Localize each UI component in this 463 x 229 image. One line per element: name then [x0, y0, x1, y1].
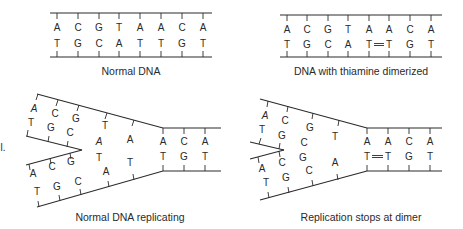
- upper-inner-backbone: [26, 136, 82, 150]
- base: C: [281, 115, 288, 126]
- base: T: [200, 38, 206, 49]
- dna-dimer-diagram: A C G T A A C A T G C A T T G T Normal D…: [0, 0, 463, 229]
- base: C: [74, 22, 81, 33]
- base: A: [160, 136, 167, 147]
- side-label: l.: [1, 142, 6, 153]
- base: C: [405, 136, 412, 147]
- thymine-dimer-bond: [372, 156, 383, 158]
- base: T: [160, 151, 166, 162]
- top-ticks: [57, 13, 203, 19]
- base: A: [385, 136, 392, 147]
- base: C: [95, 38, 102, 49]
- base: T: [385, 151, 391, 162]
- base: C: [74, 176, 81, 187]
- base: C: [48, 161, 55, 172]
- base: A: [103, 166, 110, 177]
- top-bases: A C G T A A C A: [54, 22, 207, 33]
- base: G: [306, 122, 314, 133]
- bottom-ticks: [57, 51, 203, 57]
- base: T: [332, 131, 338, 142]
- top-ticks: [287, 15, 431, 21]
- panel-normal-dna: A C G T A A C A T G C A T T G T Normal D…: [50, 13, 212, 77]
- base: C: [324, 39, 331, 50]
- base: G: [406, 39, 414, 50]
- thymine-dimer-bond: [374, 44, 384, 46]
- base: T: [263, 177, 269, 188]
- panel-replication-stops: A C G T T G C G A C T G C A A A C A T T …: [250, 99, 442, 223]
- base: T: [345, 24, 351, 35]
- base: T: [427, 151, 433, 162]
- base: A: [364, 136, 371, 147]
- bottom-ticks: [287, 51, 431, 57]
- top-bases: A C G T A A C A: [284, 24, 435, 35]
- base: G: [95, 22, 103, 33]
- base: A: [200, 22, 207, 33]
- base: A: [259, 163, 266, 174]
- base: A: [366, 24, 373, 35]
- lower-outer-backbone: [260, 171, 367, 200]
- base: A: [428, 24, 435, 35]
- base: T: [137, 38, 143, 49]
- caption-dimerized-dna: DNA with thiamine dimerized: [294, 65, 428, 77]
- base: G: [324, 24, 332, 35]
- base: G: [178, 38, 186, 49]
- base: C: [66, 127, 73, 138]
- base: A: [284, 24, 291, 35]
- panel-normal-replicating: l.: [1, 94, 222, 223]
- base: T: [386, 39, 392, 50]
- panel-dimerized-dna: A C G T A A C A T G C A T T G T DNA with…: [280, 15, 442, 77]
- base: A: [158, 22, 165, 33]
- bottom-bases: T G C A T T G T: [284, 39, 434, 50]
- base: A: [30, 168, 37, 179]
- base: G: [74, 38, 82, 49]
- base: C: [300, 137, 307, 148]
- caption-normal-dna: Normal DNA: [102, 65, 161, 77]
- base: G: [303, 39, 311, 50]
- base: G: [53, 181, 61, 192]
- base: C: [278, 157, 285, 168]
- base: G: [405, 151, 413, 162]
- base: T: [102, 120, 108, 131]
- base: T: [259, 124, 265, 135]
- base: T: [284, 39, 290, 50]
- base: A: [30, 103, 38, 114]
- base: T: [428, 39, 434, 50]
- caption-normal-replicating: Normal DNA replicating: [75, 211, 184, 223]
- base: C: [51, 108, 58, 119]
- caption-replication-stops: Replication stops at dimer: [301, 211, 422, 223]
- bottom-bases: T G C A T T G T: [54, 38, 206, 49]
- base: A: [345, 39, 352, 50]
- base: T: [54, 38, 60, 49]
- base: T: [116, 22, 122, 33]
- base: T: [366, 39, 372, 50]
- base: G: [180, 151, 188, 162]
- base: A: [427, 136, 434, 147]
- base: T: [364, 151, 370, 162]
- base: G: [299, 152, 307, 163]
- base: T: [28, 117, 34, 128]
- base: G: [278, 130, 286, 141]
- base: A: [116, 38, 123, 49]
- base: G: [72, 113, 80, 124]
- base: G: [67, 156, 75, 167]
- base: A: [202, 136, 209, 147]
- base: G: [47, 122, 55, 133]
- base: C: [305, 165, 312, 176]
- base: T: [202, 151, 208, 162]
- base: A: [332, 157, 339, 168]
- base: A: [54, 22, 61, 33]
- base: T: [127, 157, 133, 168]
- base: A: [386, 24, 393, 35]
- base: C: [180, 136, 187, 147]
- base: G: [282, 172, 290, 183]
- base: A: [127, 134, 134, 145]
- base: A: [261, 110, 269, 121]
- base: T: [96, 152, 102, 163]
- base: T: [158, 38, 164, 49]
- base: T: [34, 186, 40, 197]
- base: C: [303, 24, 310, 35]
- base: C: [406, 24, 413, 35]
- base: A: [137, 22, 144, 33]
- base: C: [178, 22, 185, 33]
- base: A: [95, 136, 103, 147]
